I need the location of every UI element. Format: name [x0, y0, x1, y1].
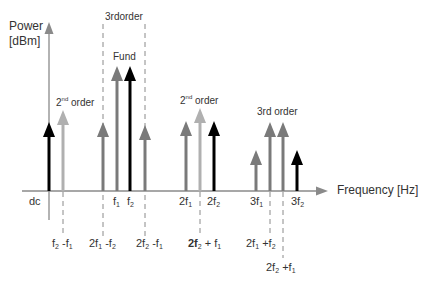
spectral-line-arrow — [250, 150, 262, 191]
spectral-line-arrow — [264, 122, 276, 191]
label-f1: f1 — [113, 196, 120, 208]
spectral-lines — [43, 66, 303, 191]
spectral-line-arrow — [180, 121, 192, 191]
third-order-right-label: 3rd order — [257, 107, 298, 117]
spectral-line-arrow — [97, 122, 109, 191]
second-order-mid-label: 2nd order — [180, 94, 218, 106]
spectral-line-arrow — [291, 150, 303, 191]
label-dc: dc — [29, 196, 41, 207]
spectral-line-arrow — [111, 66, 123, 191]
label-f2: f2 — [127, 196, 134, 208]
label-3f2: 3f2 — [291, 196, 304, 208]
label-2f1-minus-f2: 2f1 -f2 — [89, 238, 116, 250]
spectral-line-arrow — [124, 66, 136, 191]
label-2f1-plus-f2: 2f1 +f2 — [246, 238, 276, 250]
dashed-guides — [63, 24, 283, 258]
label-2f1: 2f1 — [179, 196, 192, 208]
third-order-top-label: 3rdorder — [105, 12, 143, 22]
spectral-line-arrow — [277, 122, 289, 191]
second-order-left-label: 2nd order — [56, 96, 94, 108]
label-2f2-plus-f1: 2f2 + f1 — [188, 238, 221, 250]
spectral-line-arrow — [208, 121, 220, 191]
label-2f2-minus-f1: 2f2 -f1 — [136, 238, 163, 250]
y-axis-label-line1: Power — [9, 20, 43, 32]
y-axis-label-line2: [dBm] — [9, 35, 43, 47]
spectral-line-arrow — [57, 110, 69, 191]
label-f2-minus-f1: f2 -f1 — [52, 238, 73, 250]
fund-label: Fund — [113, 52, 136, 62]
spectral-line-arrow — [139, 125, 151, 191]
spectral-line-arrow — [194, 108, 206, 191]
spectral-line-arrow — [43, 122, 55, 191]
y-axis-label: Power [dBm] — [9, 20, 43, 47]
label-2f2-plus-f1-lower: 2f2 +f1 — [266, 262, 296, 274]
label-3f1: 3f1 — [250, 196, 263, 208]
label-2f2: 2f2 — [207, 196, 220, 208]
x-axis-label: Frequency [Hz] — [337, 184, 418, 196]
